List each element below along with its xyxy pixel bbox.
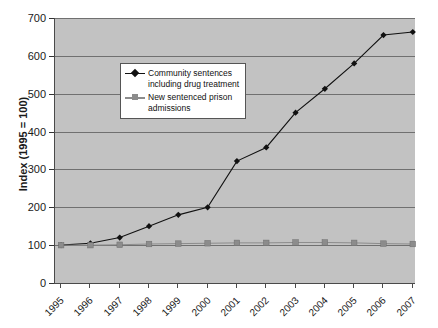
x-axis-tick-mark bbox=[265, 284, 266, 288]
data-point bbox=[117, 242, 123, 248]
data-point bbox=[322, 240, 328, 246]
legend-label-line2: admissions bbox=[148, 103, 232, 114]
data-point bbox=[88, 242, 94, 248]
x-axis-tick-mark bbox=[295, 284, 296, 288]
x-axis-tick-mark bbox=[60, 284, 61, 288]
x-axis-tick-label: 2003 bbox=[270, 295, 300, 325]
chart-legend: Community sentencesincluding drug treatm… bbox=[120, 63, 246, 119]
x-axis-tick-label: 1995 bbox=[36, 295, 66, 325]
y-axis-tick-label: 0 bbox=[12, 277, 46, 289]
plot-area bbox=[54, 18, 415, 284]
data-point bbox=[205, 240, 211, 246]
x-axis-tick-mark bbox=[177, 284, 178, 288]
data-point bbox=[205, 204, 211, 210]
data-point bbox=[175, 212, 181, 218]
data-point bbox=[234, 240, 240, 246]
data-point bbox=[176, 241, 182, 247]
x-axis-tick-mark bbox=[353, 284, 354, 288]
x-axis-tick-mark bbox=[324, 284, 325, 288]
data-point bbox=[146, 241, 152, 247]
legend-entry: New sentenced prisonadmissions bbox=[125, 92, 239, 113]
x-axis-tick-mark bbox=[236, 284, 237, 288]
y-axis-tick-label: 700 bbox=[12, 12, 46, 24]
data-point bbox=[410, 29, 416, 35]
data-point bbox=[351, 240, 357, 246]
x-axis-tick-mark bbox=[382, 284, 383, 288]
x-axis-tick-label: 1996 bbox=[65, 295, 95, 325]
x-axis-tick-label: 2006 bbox=[358, 295, 388, 325]
data-point bbox=[410, 241, 416, 247]
y-axis-tick-label: 400 bbox=[12, 126, 46, 138]
diamond-marker-icon bbox=[125, 69, 145, 79]
y-axis-tick-label: 100 bbox=[12, 239, 46, 251]
legend-label: New sentenced prisonadmissions bbox=[148, 92, 232, 113]
legend-label-line1: New sentenced prison bbox=[148, 92, 232, 103]
x-axis-tick-label: 2007 bbox=[387, 295, 417, 325]
y-axis-tick-label: 600 bbox=[12, 50, 46, 62]
x-axis-tick-mark bbox=[119, 284, 120, 288]
legend-label-line1: Community sentences bbox=[148, 68, 239, 79]
x-axis-tick-label: 2005 bbox=[329, 295, 359, 325]
data-point bbox=[293, 240, 299, 246]
x-axis-tick-mark bbox=[412, 284, 413, 288]
square-marker-icon bbox=[125, 93, 145, 103]
x-axis-tick-label: 2002 bbox=[241, 295, 271, 325]
data-point bbox=[381, 241, 387, 247]
y-axis-tick-label: 500 bbox=[12, 88, 46, 100]
x-axis-tick-label: 1998 bbox=[123, 295, 153, 325]
x-axis-tick-label: 2000 bbox=[182, 295, 212, 325]
y-axis-tick-label: 200 bbox=[12, 201, 46, 213]
x-axis-tick-label: 1997 bbox=[94, 295, 124, 325]
data-point bbox=[234, 158, 240, 164]
legend-entry: Community sentencesincluding drug treatm… bbox=[125, 68, 239, 89]
legend-label: Community sentencesincluding drug treatm… bbox=[148, 68, 239, 89]
data-series-layer bbox=[55, 18, 415, 283]
x-axis-tick-label: 2001 bbox=[211, 295, 241, 325]
x-axis-tick-mark bbox=[207, 284, 208, 288]
x-axis-tick-label: 2004 bbox=[299, 295, 329, 325]
x-axis-tick-mark bbox=[148, 284, 149, 288]
data-point bbox=[146, 223, 152, 229]
x-axis-tick-label: 1999 bbox=[153, 295, 183, 325]
data-point bbox=[263, 240, 269, 246]
y-axis-tick-label: 300 bbox=[12, 163, 46, 175]
chart-container: Index (1995 = 100) 010020030040050060070… bbox=[0, 0, 438, 328]
legend-label-line2: including drug treatment bbox=[148, 79, 239, 90]
data-point bbox=[58, 242, 64, 248]
x-axis-tick-mark bbox=[89, 284, 90, 288]
data-point bbox=[117, 234, 123, 240]
